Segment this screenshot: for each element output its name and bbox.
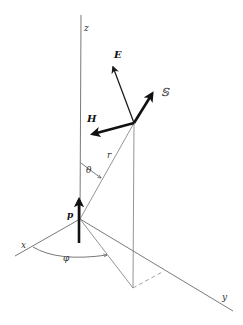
phi-arc (33, 247, 107, 257)
y-axis (80, 219, 233, 311)
dipole-radiation-diagram: z x y E H 𝕊 r θ φ p (0, 0, 243, 325)
phi-label: φ (63, 253, 70, 263)
dipole-label: p (67, 210, 74, 220)
vertical-projection-line (133, 123, 134, 288)
poynting-vector-arrow (134, 94, 152, 123)
electric-field-label: E (113, 49, 122, 60)
electric-field-arrow (113, 67, 134, 123)
dashed-projection-to-y (133, 271, 164, 288)
poynting-vector-label: 𝕊 (161, 86, 170, 99)
z-axis (80, 15, 81, 219)
x-axis-label: x (21, 240, 26, 250)
z-axis-label: z (83, 23, 89, 33)
theta-label: θ (86, 165, 92, 175)
magnetic-field-label: H (86, 113, 97, 124)
y-axis-label: y (221, 292, 228, 302)
x-axis (15, 219, 80, 256)
radius-label: r (107, 150, 112, 160)
magnetic-field-arrow (93, 123, 134, 134)
ground-projection-line (80, 219, 133, 288)
